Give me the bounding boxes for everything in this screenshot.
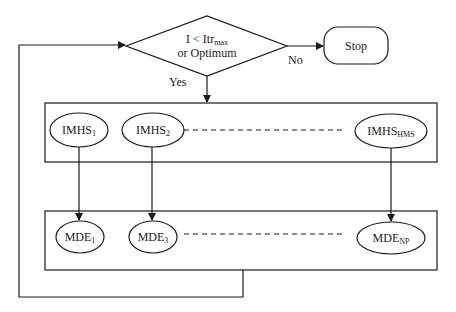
imhs-2-label: IMHS2: [136, 123, 170, 137]
imhs-hms-main: IMHS: [367, 124, 397, 138]
imhs-1-main: IMHS: [62, 123, 92, 137]
mde-1-label: MDE1: [65, 230, 96, 244]
imhs-2-main: IMHS: [136, 123, 166, 137]
imhs-2-sub: 2: [166, 129, 170, 138]
mde-3-sub: 3: [164, 236, 168, 245]
stop-label: Stop: [345, 39, 367, 53]
imhs-1-label: IMHS1: [62, 123, 96, 137]
imhs-hms-sub: HMS: [397, 130, 414, 139]
mde-np-main: MDE: [373, 231, 400, 245]
mde-1-sub: 1: [91, 236, 95, 245]
decision-line1: I < Itr: [186, 32, 214, 46]
decision-line2: or Optimum: [178, 46, 237, 60]
loop-back-arrow: [19, 45, 243, 297]
mde-np-label: MDENP: [373, 231, 410, 245]
mde-3-label: MDE3: [138, 230, 169, 244]
mde-1-main: MDE: [65, 230, 92, 244]
decision-label: I < Itrmax or Optimum: [178, 32, 237, 60]
yes-label: Yes: [169, 75, 186, 89]
imhs-hms-label: IMHSHMS: [367, 124, 414, 138]
mde-np-sub: NP: [399, 237, 409, 246]
mde-3-main: MDE: [138, 230, 165, 244]
imhs-1-sub: 1: [92, 129, 96, 138]
no-label: No: [288, 53, 303, 67]
